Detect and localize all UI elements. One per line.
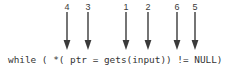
order-number: 5 xyxy=(188,2,202,12)
down-arrow-icon xyxy=(170,12,184,51)
evaluation-order-diagram: 4 3 1 2 6 5 whil xyxy=(0,0,234,71)
order-number: 4 xyxy=(60,2,74,12)
code-statement: while ( *( ptr = gets(input)) != NULL) xyxy=(8,54,222,66)
order-marker-5: 5 xyxy=(188,0,202,52)
order-marker-3: 3 xyxy=(81,0,95,52)
order-marker-1: 1 xyxy=(119,0,133,52)
order-number: 3 xyxy=(81,2,95,12)
order-marker-4: 4 xyxy=(60,0,74,52)
order-number: 1 xyxy=(119,2,133,12)
order-marker-6: 6 xyxy=(170,0,184,52)
order-number: 6 xyxy=(170,2,184,12)
down-arrow-icon xyxy=(119,12,133,51)
order-marker-2: 2 xyxy=(141,0,155,52)
down-arrow-icon xyxy=(188,12,202,51)
down-arrow-icon xyxy=(60,12,74,51)
down-arrow-icon xyxy=(81,12,95,51)
down-arrow-icon xyxy=(141,12,155,51)
order-number: 2 xyxy=(141,2,155,12)
